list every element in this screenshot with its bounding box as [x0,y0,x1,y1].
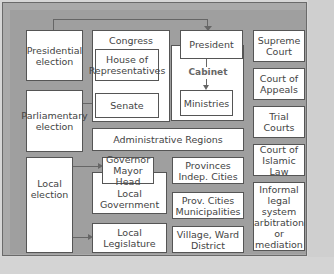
connector-parliamentary-senate [83,103,92,104]
governor-label: Governor Mayor Head [103,154,153,187]
president-label: President [189,39,233,50]
provinces-box: Provinces Indep. Cities [172,157,244,184]
right-margin [308,0,334,274]
local-election-label: Local election [27,178,72,200]
presidential-election-label: Presidential election [27,45,82,67]
ministries-box: Ministries [180,90,233,116]
supreme-court-label: Supreme Court [254,35,304,57]
prov-cities-box: Prov. Cities Municipalities [172,192,244,219]
trial-courts-label: Trial Courts [254,111,304,133]
court-of-islamic-law-box: Court of Islamic Law [253,144,305,176]
trial-courts-box: Trial Courts [253,106,305,138]
presidential-election-box: Presidential election [26,30,83,81]
court-of-appeals-label: Court of Appeals [254,73,304,95]
connector-top-horizontal [53,19,208,20]
prov-cities-label: Prov. Cities Municipalities [173,195,243,217]
governor-box: Governor Mayor Head [102,157,154,184]
local-election-box: Local election [26,157,73,253]
congress-label: Congress [109,35,153,46]
informal-label: Informal legal system arbitration or med… [254,184,304,250]
ministries-label: Ministries [184,98,230,109]
senate-box: Senate [95,93,159,118]
cabinet-label: Cabinet [180,67,236,77]
local-legislature-label: Local Legislature [93,227,166,249]
house-of-representatives-box: House of Representatives [95,49,159,81]
parliamentary-election-label: Parliamentary election [21,110,87,132]
provinces-label: Provinces Indep. Cities [173,160,243,182]
connector-local-governor [73,166,100,167]
house-label: House of Representatives [89,54,166,76]
connector-president-ministries [206,59,207,67]
parliamentary-election-box: Parliamentary election [26,90,83,152]
village-label: Village, Ward District [173,229,243,251]
informal-legal-system-box: Informal legal system arbitration or med… [253,182,305,251]
local-legislature-box: Local Legislature [92,223,167,253]
connector-presidential-president [53,19,54,30]
senate-label: Senate [110,100,143,111]
president-box: President [180,30,243,59]
court-of-appeals-box: Court of Appeals [253,68,305,100]
administrative-regions-box: Administrative Regions [92,128,244,151]
islamic-court-label: Court of Islamic Law [254,144,304,177]
local-government-label: Local Government [93,188,166,210]
village-box: Village, Ward District [172,226,244,253]
admin-regions-label: Administrative Regions [113,134,223,145]
bottom-margin [0,257,334,274]
supreme-court-box: Supreme Court [253,30,305,62]
